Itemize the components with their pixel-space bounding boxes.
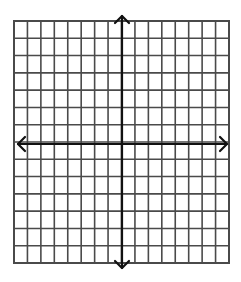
coordinate-plane: [0, 0, 241, 282]
